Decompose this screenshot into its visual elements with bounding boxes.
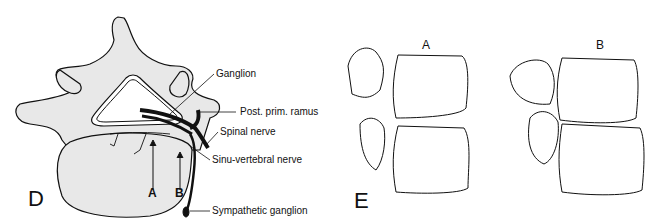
panel-e-sublabel-a: A bbox=[422, 38, 430, 52]
label-sinu-vertebral-nerve: Sinu-vertebral nerve bbox=[212, 154, 302, 165]
panel-d-letter: D bbox=[28, 186, 44, 212]
panel-e-letter: E bbox=[354, 188, 369, 214]
panel-e-a-lower-vertebra bbox=[360, 118, 469, 193]
label-spinal-nerve: Spinal nerve bbox=[220, 126, 276, 137]
arrow-label-b: B bbox=[175, 186, 184, 200]
label-post-prim-ramus: Post. prim. ramus bbox=[240, 106, 318, 117]
label-ganglion: Ganglion bbox=[216, 68, 256, 79]
arrow-label-a: A bbox=[148, 186, 157, 200]
diagram-canvas bbox=[0, 0, 662, 223]
panel-e-b-lower-vertebra bbox=[529, 112, 644, 195]
panel-e-sublabel-b: B bbox=[596, 38, 604, 52]
panel-e-a-upper-vertebra bbox=[348, 48, 468, 118]
label-sympathetic-ganglion: Sympathetic ganglion bbox=[212, 205, 308, 216]
panel-e-b-upper-vertebra bbox=[510, 58, 638, 123]
